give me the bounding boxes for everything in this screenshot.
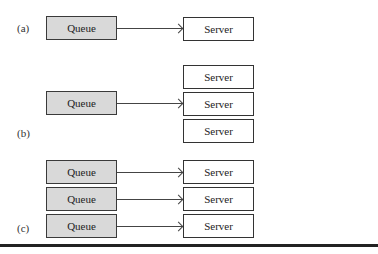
queue-box: Queue xyxy=(46,214,117,238)
server-label: Server xyxy=(204,193,233,205)
server-box: Server xyxy=(183,65,254,89)
server-box: Server xyxy=(183,160,254,184)
server-label: Server xyxy=(204,23,233,35)
queue-box: Queue xyxy=(46,16,117,40)
queue-label: Queue xyxy=(67,166,96,178)
queue-label: Queue xyxy=(67,97,96,109)
panel-label-b: (b) xyxy=(17,127,30,139)
server-box: Server xyxy=(183,119,254,143)
panel-label-c: (c) xyxy=(17,222,29,234)
server-box: Server xyxy=(183,17,254,41)
server-box: Server xyxy=(183,92,254,116)
server-label: Server xyxy=(204,125,233,137)
server-label: Server xyxy=(204,98,233,110)
bottom-divider xyxy=(0,244,378,247)
queue-box: Queue xyxy=(46,91,117,115)
arrow-icon xyxy=(117,28,183,29)
queue-box: Queue xyxy=(46,187,117,211)
arrow-icon xyxy=(117,226,183,227)
arrow-icon xyxy=(117,172,183,173)
server-label: Server xyxy=(204,71,233,83)
server-box: Server xyxy=(183,187,254,211)
server-box: Server xyxy=(183,214,254,238)
panel-label-a: (a) xyxy=(17,22,29,34)
arrow-icon xyxy=(117,199,183,200)
server-label: Server xyxy=(204,220,233,232)
queue-label: Queue xyxy=(67,220,96,232)
arrow-icon xyxy=(117,103,183,104)
queue-label: Queue xyxy=(67,193,96,205)
server-label: Server xyxy=(204,166,233,178)
queue-box: Queue xyxy=(46,160,117,184)
queue-label: Queue xyxy=(67,22,96,34)
